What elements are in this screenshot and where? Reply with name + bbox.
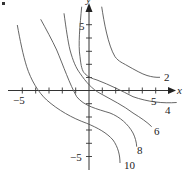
level-curve-6	[64, 13, 152, 126]
level-curve-4	[79, 7, 177, 103]
x-tick-label-neg5: −5	[13, 94, 25, 106]
curve-label-4: 4	[165, 104, 171, 116]
level-curve-2	[102, 7, 160, 78]
curve-label-8: 8	[137, 144, 143, 156]
corner-dot	[2, 2, 5, 5]
curve-label-6: 6	[154, 125, 160, 137]
curve-label-2: 2	[164, 71, 170, 83]
y-axis-label: y	[85, 0, 91, 5]
y-tick-label-neg5: −5	[70, 151, 82, 163]
x-axis-label: x	[176, 84, 182, 96]
curve-label-10: 10	[124, 159, 136, 170]
x-axis-arrow-icon	[168, 87, 176, 94]
curve-label-5: 5	[151, 95, 157, 107]
contour-plot: x −5 y 5 −5 2 4 5 6 8 10	[0, 0, 183, 170]
